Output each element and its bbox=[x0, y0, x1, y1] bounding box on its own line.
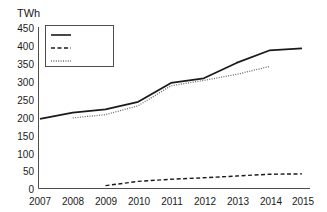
series-line-wind bbox=[106, 174, 303, 186]
chart-container: TWh 450 400 350 300 250 200 150 100 50 0… bbox=[0, 0, 327, 212]
plot-area bbox=[0, 0, 327, 212]
legend-box bbox=[46, 26, 114, 67]
